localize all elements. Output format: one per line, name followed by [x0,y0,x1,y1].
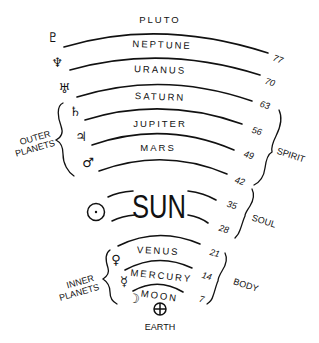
age-7: 7 [198,294,206,305]
soul-brace [235,189,253,238]
age-56: 56 [251,125,263,137]
age-42: 42 [234,175,246,187]
outer-planets-label: OUTER PLANETS [11,128,56,159]
label-moon: MOON [140,287,179,303]
age-70: 70 [264,76,277,89]
arc-sun-top-right [188,191,216,200]
label-mercury: MERCURY [130,267,193,284]
age-21: 21 [208,247,221,259]
moon-symbol-icon: ☽ [128,291,140,306]
spirit-brace [254,110,281,185]
soul-label: SOUL [251,213,277,230]
label-pluto: PLUTO [139,14,181,25]
age-14: 14 [201,270,213,282]
age-28: 28 [217,223,230,236]
saturn-symbol-icon: ♄ [69,104,81,119]
label-uranus: URANUS [134,63,186,76]
label-venus: VENUS [137,244,180,257]
age-35: 35 [226,199,239,212]
jupiter-symbol-icon: ♃ [75,129,87,144]
label-jupiter: JUPITER [133,118,187,129]
venus-symbol-icon: ♀ [111,252,121,267]
spirit-label: SPIRIT [276,146,307,165]
arc-mars-bottom [99,160,227,174]
label-earth: EARTH [145,322,175,332]
uranus-symbol-icon: ♅ [58,81,70,96]
label-mars: MARS [140,142,175,153]
mars-symbol-icon: ♂ [82,155,94,170]
pluto-symbol-icon: ♇ [47,30,59,45]
arc-sun-top-left [108,191,133,197]
label-neptune: NEPTUNE [132,38,192,51]
earth-symbol-icon [154,303,166,315]
age-77: 77 [272,53,286,66]
sun-symbol-icon [88,204,105,221]
arc-sun-bottom-right [188,215,208,223]
age-49: 49 [243,149,255,161]
body-label: BODY [232,276,259,293]
mercury-symbol-icon: ☿ [120,274,128,289]
label-sun: SUN [132,187,186,225]
age-63: 63 [259,99,271,111]
planetary-spheres-diagram: PLUTO NEPTUNE URANUS SATURN JUPITER MARS… [0,0,319,343]
inner-planets-label: INNER PLANETS [55,272,100,303]
neptune-symbol-icon: ♆ [51,55,63,70]
label-saturn: SATURN [135,90,186,103]
